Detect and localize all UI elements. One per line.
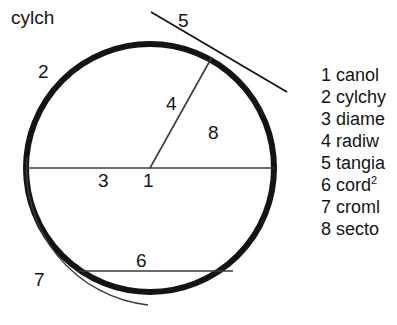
figure-label-4: 4 [166, 94, 177, 113]
legend-item-label: cord [336, 175, 371, 195]
legend-item: 1 canol [321, 64, 397, 86]
legend-item: 4 radiw [321, 130, 397, 152]
legend-item-number: 6 [321, 175, 331, 195]
figure-label-3: 3 [98, 171, 109, 190]
legend-item-number: 2 [321, 87, 331, 107]
legend-item: 8 secto [321, 218, 397, 240]
legend-item-number: 3 [321, 109, 331, 129]
legend-item-number: 1 [321, 65, 331, 85]
legend-item: 2 cylchy [321, 86, 397, 108]
legend-item-label: croml [336, 197, 380, 217]
legend-item-label: radiw [336, 131, 379, 151]
figure-label-7: 7 [34, 270, 45, 289]
legend-item-superscript: 2 [371, 174, 377, 186]
legend-item-label: tangia [336, 153, 385, 173]
figure-label-1: 1 [143, 171, 154, 190]
legend-item: 7 croml [321, 196, 397, 218]
figure-label-5: 5 [178, 11, 189, 30]
legend-item-number: 5 [321, 153, 331, 173]
legend-item-number: 8 [321, 219, 331, 239]
legend-item-number: 7 [321, 197, 331, 217]
figure-label-6: 6 [136, 251, 147, 270]
figure-page: cylch 2 5 4 8 3 1 6 7 1 canol 2 cylchy 3… [0, 0, 397, 325]
figure-label-8: 8 [208, 123, 219, 142]
legend-item: 3 diame [321, 108, 397, 130]
legend-item: 5 tangia [321, 152, 397, 174]
figure-label-2: 2 [38, 62, 49, 81]
legend-item: 6 cord2 [321, 174, 397, 196]
tangent-line [151, 12, 287, 92]
legend-item-label: secto [336, 219, 379, 239]
legend: 1 canol 2 cylchy 3 diame 4 radiw 5 tangi… [321, 64, 397, 240]
legend-item-label: cylchy [336, 87, 386, 107]
legend-item-label: canol [336, 65, 379, 85]
legend-item-number: 4 [321, 131, 331, 151]
radius-line [150, 57, 212, 168]
legend-item-label: diame [336, 109, 385, 129]
